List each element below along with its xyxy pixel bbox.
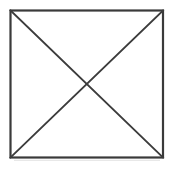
figure-container: Square with both diagonals A square outl… xyxy=(0,0,173,170)
square-with-diagonals-figure xyxy=(0,0,173,170)
